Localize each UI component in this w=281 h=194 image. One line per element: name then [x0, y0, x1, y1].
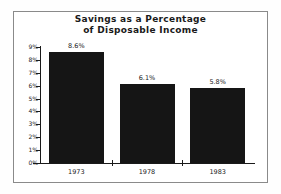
- x-axis-separator-tick: [112, 160, 113, 166]
- y-axis-tick-label: 7%: [14, 70, 38, 76]
- bar-value-label: 6.1%: [120, 75, 175, 82]
- y-axis-tick-label: 0%: [14, 160, 38, 166]
- x-axis-category-label: 1973: [41, 168, 112, 176]
- y-axis-tick-label: 5%: [14, 96, 38, 102]
- bar-value-label: 8.6%: [49, 43, 104, 50]
- bar: [190, 88, 245, 163]
- y-axis-tick-label: 8%: [14, 57, 38, 63]
- bar-value-label: 5.8%: [190, 79, 245, 86]
- chart-title: Savings as a Percentage of Disposable In…: [13, 14, 268, 36]
- x-axis-category-label: 1983: [182, 168, 253, 176]
- y-axis-tick-label: 4%: [14, 108, 38, 114]
- x-axis-separator-tick: [182, 160, 183, 166]
- x-axis-line: [33, 163, 255, 164]
- x-axis-category-label: 1978: [112, 168, 183, 176]
- chart-title-line-2: of Disposable Income: [13, 25, 268, 36]
- chart-title-line-1: Savings as a Percentage: [13, 14, 268, 25]
- bar: [120, 84, 175, 163]
- y-axis-tick-label: 6%: [14, 83, 38, 89]
- y-axis-tick-label: 3%: [14, 121, 38, 127]
- bar: [49, 52, 104, 163]
- chart-figure: Savings as a Percentage of Disposable In…: [0, 0, 281, 194]
- y-axis-tick-mark: [36, 163, 41, 164]
- y-axis-tick-label: 1%: [14, 147, 38, 153]
- y-axis-tick-label: 9%: [14, 44, 38, 50]
- y-axis-tick-label: 2%: [14, 134, 38, 140]
